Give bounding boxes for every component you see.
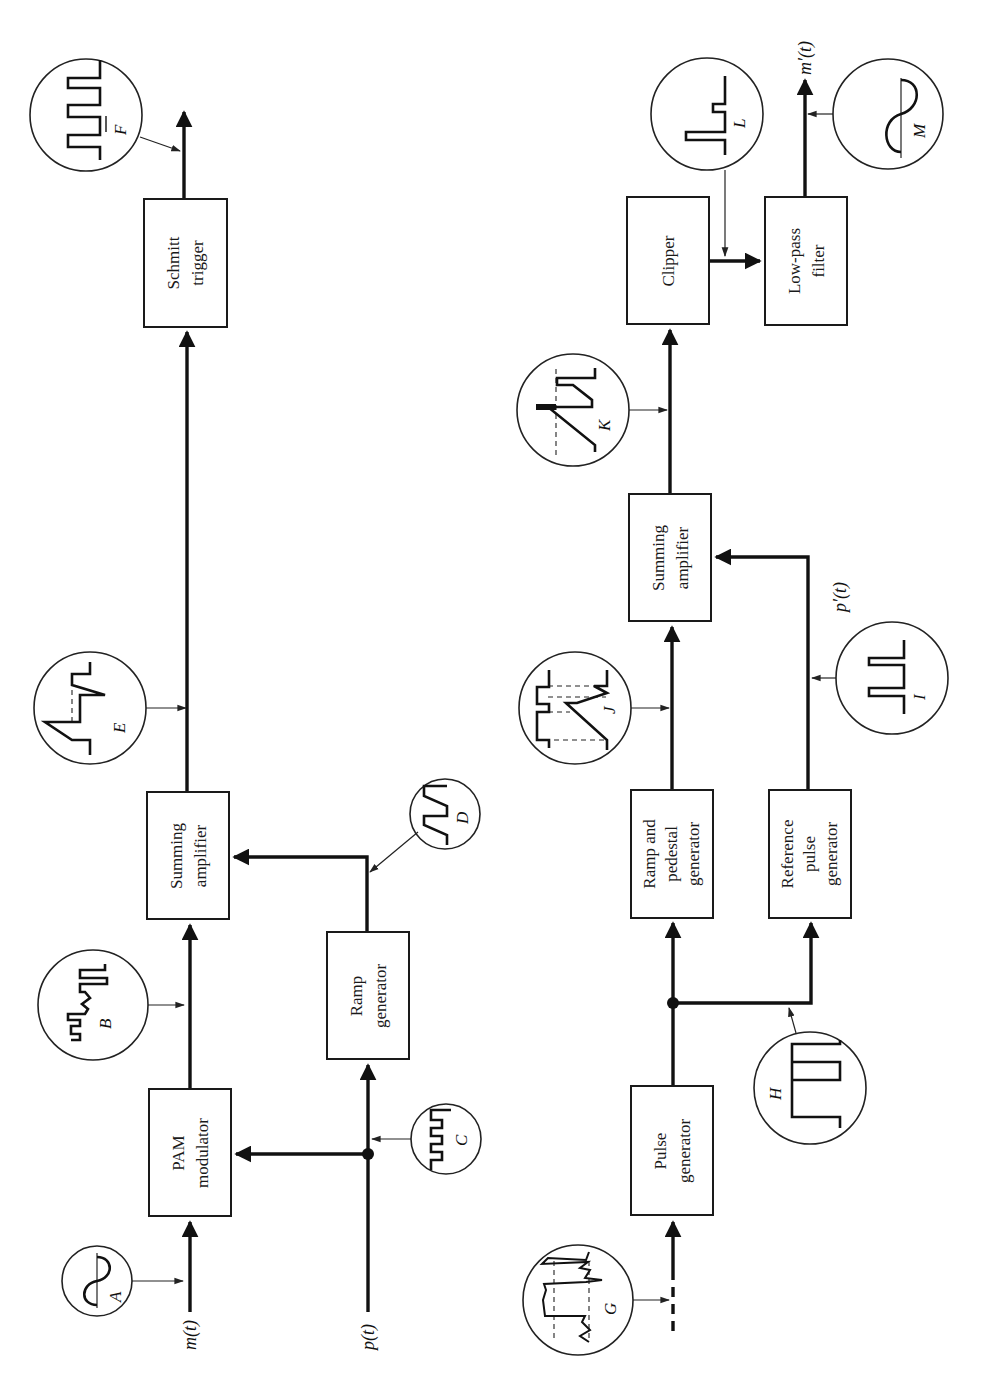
waveform-c-icon: C	[372, 1104, 481, 1174]
svg-text:filter: filter	[809, 244, 828, 277]
ramp-to-sum-wire	[234, 857, 367, 933]
waveform-a-icon: A	[62, 1246, 183, 1316]
p-t-label: p(t)	[358, 1324, 379, 1352]
junction-dot	[362, 1148, 374, 1160]
waveform-e-icon: E	[34, 652, 186, 764]
svg-text:B: B	[96, 1018, 115, 1029]
svg-text:G: G	[601, 1303, 620, 1315]
waveform-h-icon: H	[754, 1008, 866, 1144]
pulsegen-to-ref-wire	[673, 923, 811, 1003]
svg-text:pulse: pulse	[800, 836, 819, 872]
svg-text:Pulse: Pulse	[651, 1133, 670, 1170]
pam-modulator-label-2: modulator	[193, 1118, 212, 1188]
m-t-label: m(t)	[180, 1320, 201, 1350]
svg-text:Reference: Reference	[778, 820, 797, 889]
svg-text:pedestal: pedestal	[662, 826, 681, 882]
reference-pulse-generator-block: Reference pulse generator	[769, 790, 851, 918]
ref-to-sum2-wire	[716, 557, 808, 790]
svg-text:E: E	[110, 722, 129, 734]
waveform-k-icon: K	[517, 354, 667, 466]
waveform-m-icon: M	[808, 59, 943, 169]
summing-amp-tx-label-1: Summing	[167, 822, 186, 889]
svg-text:generator: generator	[675, 1119, 694, 1184]
svg-text:H: H	[766, 1086, 785, 1101]
schmitt-trigger-block: Schmitt trigger	[144, 199, 227, 327]
waveform-j-icon: J	[519, 652, 669, 764]
svg-text:generator: generator	[684, 822, 703, 887]
pulse-generator-block: Pulse generator	[631, 1086, 713, 1215]
p-prime-t-label: p′(t)	[830, 582, 851, 614]
ramp-generator-label-2: generator	[371, 964, 390, 1029]
summing-amp-tx-label-2: amplifier	[191, 825, 210, 888]
svg-text:C: C	[452, 1134, 471, 1146]
svg-text:F: F	[111, 124, 130, 136]
schmitt-trigger-label-2: trigger	[188, 240, 207, 286]
summing-amplifier-tx-block: Summing amplifier	[147, 792, 229, 919]
receiver-section: Pulse generator Ramp and pedestal genera…	[517, 41, 948, 1355]
ramp-generator-label-1: Ramp	[347, 976, 366, 1017]
svg-text:Low-pass: Low-pass	[785, 228, 804, 294]
waveform-b-icon: B	[38, 950, 184, 1060]
svg-text:K: K	[595, 418, 614, 432]
ppm-block-diagram: PAM modulator Summing amplifier Schmitt …	[0, 0, 987, 1382]
svg-text:M: M	[910, 123, 929, 139]
svg-text:D: D	[453, 811, 472, 825]
clipper-block: Clipper	[627, 197, 709, 324]
transmitter-section: PAM modulator Summing amplifier Schmitt …	[30, 59, 481, 1352]
svg-text:Summing: Summing	[649, 524, 668, 591]
svg-text:generator: generator	[822, 822, 841, 887]
pam-modulator-label-1: PAM	[169, 1135, 188, 1170]
ramp-generator-block: Ramp generator	[327, 932, 409, 1059]
waveform-f-icon: F	[30, 59, 180, 171]
ramp-pedestal-generator-block: Ramp and pedestal generator	[631, 790, 713, 918]
svg-text:L: L	[730, 119, 749, 129]
waveform-g-icon: G	[523, 1245, 669, 1355]
svg-text:amplifier: amplifier	[673, 527, 692, 590]
low-pass-filter-block: Low-pass filter	[765, 197, 847, 325]
m-prime-t-label: m′(t)	[795, 41, 816, 75]
summing-amplifier-rx-block: Summing amplifier	[629, 494, 711, 621]
schmitt-trigger-label-1: Schmitt	[164, 236, 183, 289]
svg-text:Clipper: Clipper	[659, 235, 678, 286]
waveform-d-icon: D	[370, 779, 480, 872]
waveform-i-icon: I	[812, 622, 948, 734]
svg-text:Ramp and: Ramp and	[640, 819, 659, 889]
pam-modulator-block: PAM modulator	[149, 1089, 231, 1216]
svg-text:A: A	[106, 1291, 125, 1303]
